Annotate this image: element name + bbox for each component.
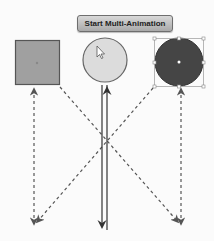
square-shape[interactable] bbox=[16, 41, 60, 85]
dark-circle-shape[interactable] bbox=[155, 38, 203, 86]
light-circle-shape[interactable] bbox=[83, 38, 127, 82]
diagonal-arrow-left-to-right bbox=[60, 87, 178, 222]
diagonal-arrow-right-to-left bbox=[37, 88, 153, 222]
center-double-arrow bbox=[99, 85, 108, 230]
animation-canvas bbox=[0, 0, 214, 241]
